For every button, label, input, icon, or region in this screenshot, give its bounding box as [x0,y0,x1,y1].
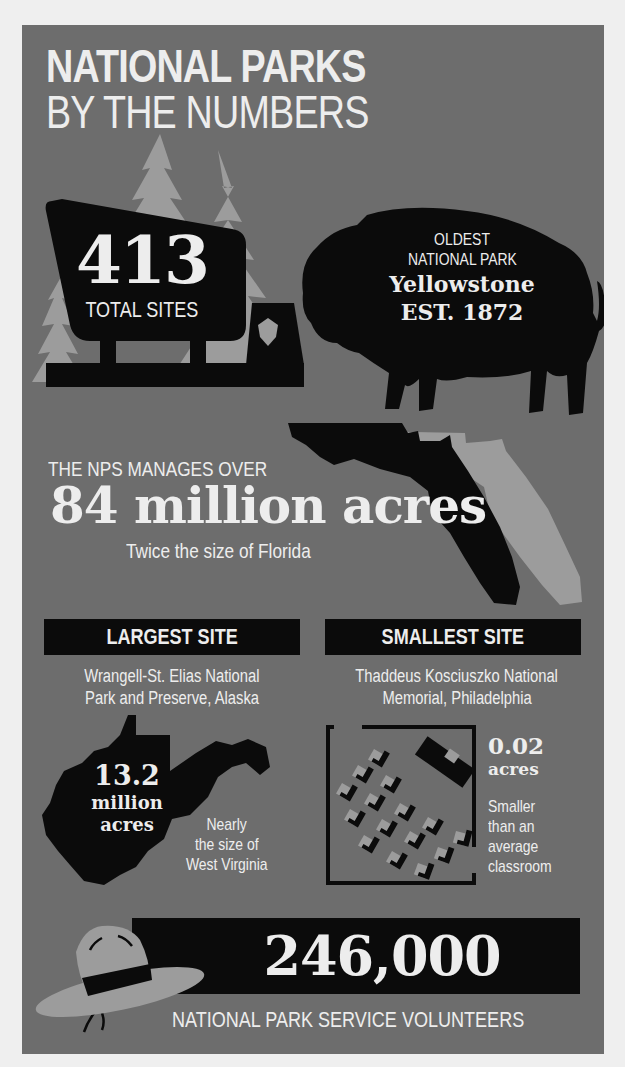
total-sites-value: 413 [62,225,222,295]
smallest-site-unit: acres [488,759,544,779]
oldest-label-line2: NATIONAL PARK [408,250,517,270]
volunteers-label: NATIONAL PARK SERVICE VOLUNTEERS [172,1007,524,1033]
largest-site-unit-line1: million [72,792,182,814]
total-sites-block: 413 TOTAL SITES [62,225,222,323]
smallest-site-stats: 0.02 acres [488,733,544,779]
largest-site-value: 13.2 [72,760,182,792]
oldest-label-line1: OLDEST [434,230,490,250]
smallest-site-name-line1: Thaddeus Kosciuszko National [356,665,559,687]
smallest-site-name-line2: Memorial, Philadelphia [382,687,531,709]
largest-site-name-line1: Wrangell-St. Elias National [84,665,259,687]
smallest-comparison-line2: than an [488,817,535,837]
classroom-icon [324,723,484,888]
smallest-site-name: Thaddeus Kosciuszko National Memorial, P… [312,665,602,709]
largest-site-name-line2: Park and Preserve, Alaska [85,687,259,709]
largest-site-name: Wrangell-St. Elias National Park and Pre… [32,665,312,709]
title-line-2: BY THE NUMBERS [46,89,369,135]
smallest-site-comparison: Smaller than an average classroom [488,797,565,877]
smallest-site-header-label: SMALLEST SITE [382,619,524,655]
oldest-park-block: OLDEST NATIONAL PARK Yellowstone EST. 18… [347,230,577,326]
largest-comparison-line1: Nearly [207,815,247,835]
oldest-park-established: EST. 1872 [347,298,577,326]
largest-site-header-label: LARGEST SITE [106,619,237,655]
largest-site-header: LARGEST SITE [44,619,300,655]
smallest-site-header: SMALLEST SITE [325,619,581,655]
total-sites-label: TOTAL SITES [86,297,199,323]
largest-comparison-line2: the size of [195,835,259,855]
smallest-site-value: 0.02 [488,733,544,759]
infographic-panel: NATIONAL PARKS BY THE NUMBERS 413 TOTAL … [22,25,604,1054]
largest-site-comparison: Nearly the size of West Virginia [162,815,292,875]
largest-comparison-line3: West Virginia [186,855,268,875]
acres-value: 84 million acres [50,477,486,535]
smallest-comparison-line1: Smaller [488,797,535,817]
smallest-comparison-line4: classroom [488,857,552,877]
smallest-comparison-line3: average [488,837,538,857]
volunteers-value: 246,000 [202,920,562,992]
arrowhead-icon [257,317,279,347]
title-line-1: NATIONAL PARKS [46,43,366,89]
oldest-park-name: Yellowstone [347,270,577,298]
acres-comparison: Twice the size of Florida [126,539,311,563]
